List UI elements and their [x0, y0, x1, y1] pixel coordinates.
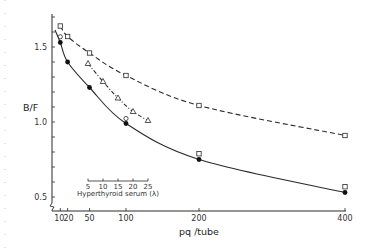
data-point [343, 133, 347, 137]
data-point [87, 85, 92, 90]
data-point [197, 157, 202, 162]
overlay-data-point [197, 152, 201, 156]
data-point [85, 61, 91, 66]
overlay-data-point [343, 185, 347, 189]
x-tick-label: 200 [191, 214, 206, 223]
data-point [65, 34, 69, 38]
x-tick-label: 20 [64, 214, 74, 223]
overlay-data-point [58, 35, 62, 39]
x-axis-label: pq /tube [179, 226, 219, 237]
axis-break-mark [50, 203, 54, 211]
data-point [58, 24, 62, 28]
x-tick-label: 50 [84, 214, 94, 223]
data-point [124, 121, 129, 126]
data-point [58, 40, 63, 45]
series-lines [55, 26, 345, 193]
overlay-data-point [124, 116, 128, 120]
x-tick-label: 100 [118, 214, 133, 223]
data-point [87, 51, 91, 55]
chart: 0.51.01.5102050100200400510152025 B/F pq… [0, 0, 367, 251]
y-tick-label: 1.0 [34, 118, 47, 127]
series-line-1 [55, 30, 345, 193]
data-point [124, 73, 128, 77]
inset-axis-label: Hyperthyroid serum (λ) [77, 190, 159, 198]
y-tick-label: 0.5 [34, 193, 47, 202]
data-point [65, 60, 70, 65]
y-tick-label: 1.5 [34, 43, 47, 52]
data-point [197, 103, 201, 107]
data-point [130, 109, 136, 114]
markers [58, 24, 348, 195]
x-tick-label: 400 [337, 214, 352, 223]
y-axis-label: B/F [23, 102, 38, 113]
data-point [343, 190, 348, 195]
